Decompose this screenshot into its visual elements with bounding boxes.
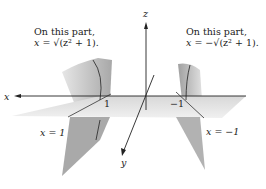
y-axis-label: y (121, 157, 126, 168)
z-axis-label: z (143, 8, 148, 19)
y-arrow-icon (121, 148, 126, 156)
x-arrow-icon (14, 94, 21, 98)
right-sheet-upper (178, 64, 202, 100)
z-arrow-icon (144, 22, 148, 29)
x-axis-label: x (4, 91, 9, 102)
tick-x-1: 1 (104, 98, 110, 109)
annotation-right: On this part, x = −√(z² + 1). (186, 26, 259, 48)
plane-label-x-1: x = 1 (40, 127, 65, 138)
plane-label-x-neg1: x = −1 (206, 126, 239, 137)
tick-x-neg1: −1 (170, 98, 184, 109)
left-sheet-lower (62, 117, 110, 176)
annotation-left: On this part, x = √(z² + 1). (34, 26, 99, 48)
xy-plane (12, 96, 246, 118)
right-sheet-lower (176, 117, 205, 170)
